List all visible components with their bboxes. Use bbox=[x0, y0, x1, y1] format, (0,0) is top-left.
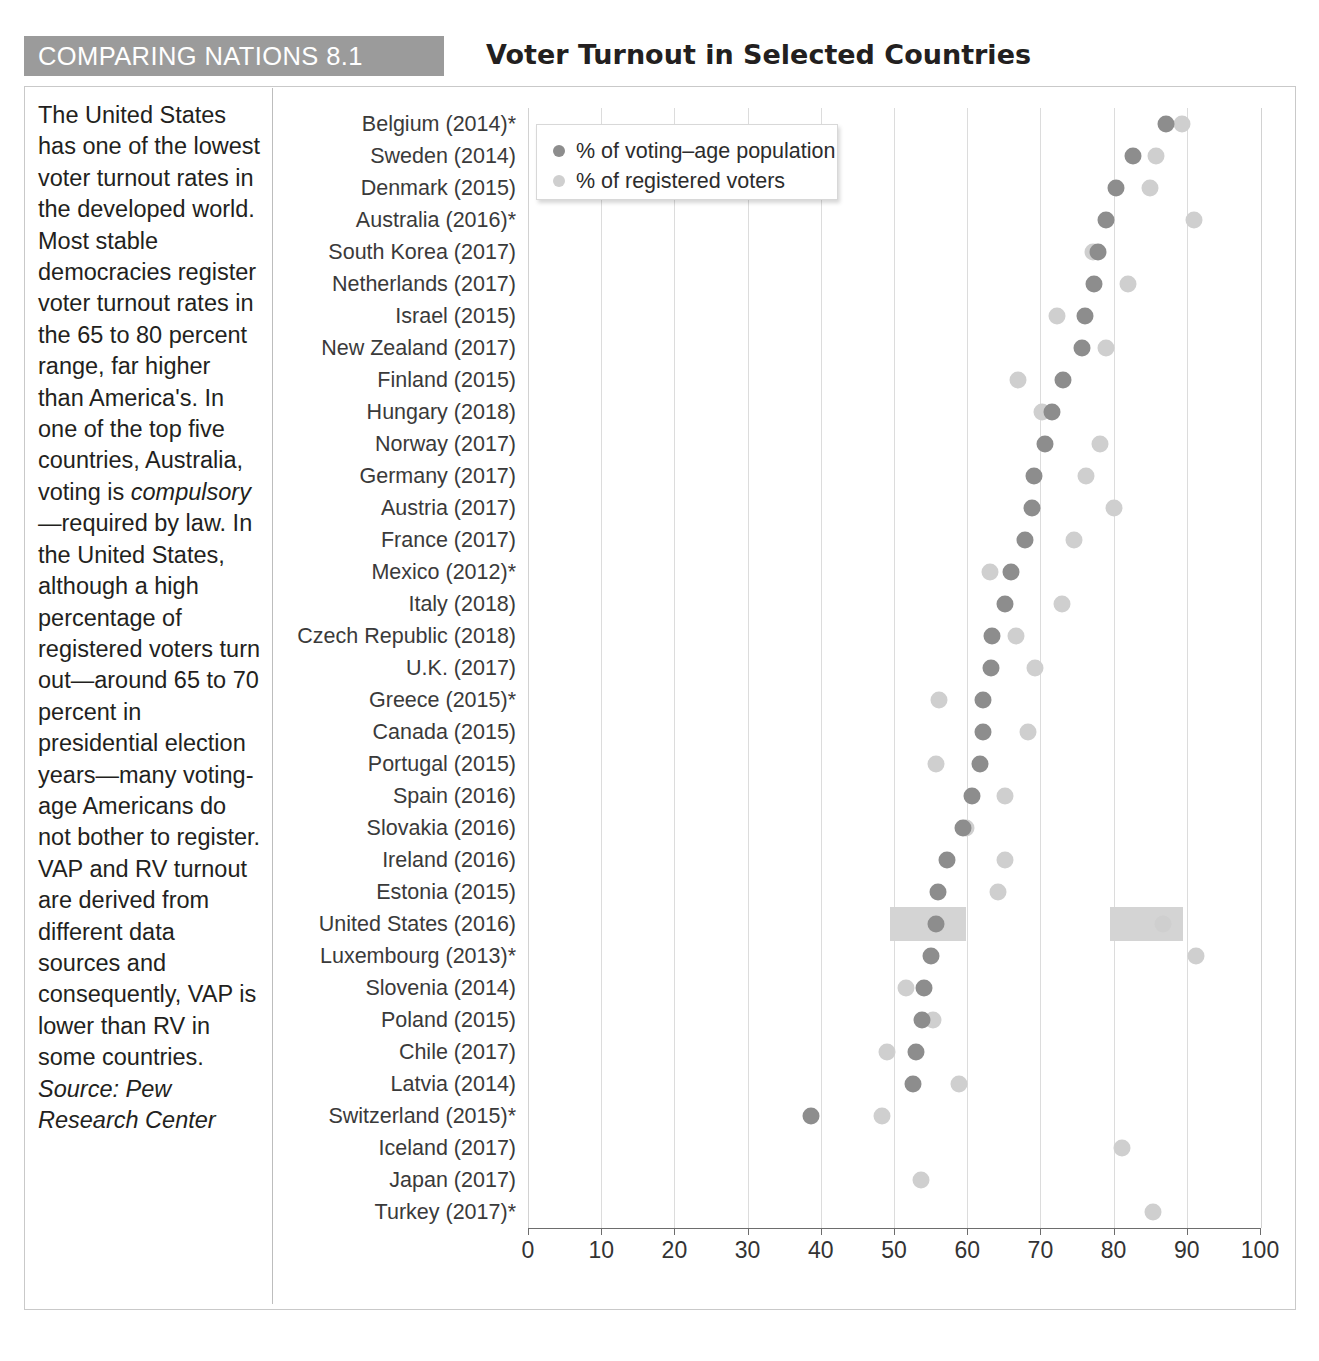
data-point-vap bbox=[916, 980, 933, 997]
data-point-rv bbox=[1145, 1204, 1162, 1221]
data-point-vap bbox=[1124, 148, 1141, 165]
x-tick-label-10: 10 bbox=[588, 1237, 614, 1264]
x-tick-label-50: 50 bbox=[881, 1237, 907, 1264]
category-label: Ireland (2016) bbox=[382, 848, 516, 873]
data-point-rv bbox=[996, 852, 1013, 869]
data-point-vap bbox=[1077, 308, 1094, 325]
x-tick-label-70: 70 bbox=[1028, 1237, 1054, 1264]
category-label: Netherlands (2017) bbox=[332, 272, 516, 297]
x-tick-label-100: 100 bbox=[1241, 1237, 1279, 1264]
category-label: Mexico (2012)* bbox=[371, 560, 516, 585]
category-label: Japan (2017) bbox=[389, 1168, 516, 1193]
data-point-rv bbox=[874, 1108, 891, 1125]
data-point-vap bbox=[1090, 244, 1107, 261]
data-point-vap bbox=[913, 1012, 930, 1029]
category-label: Portugal (2015) bbox=[368, 752, 516, 777]
data-point-rv bbox=[1187, 948, 1204, 965]
data-point-rv bbox=[1007, 628, 1024, 645]
data-point-rv bbox=[1155, 916, 1172, 933]
x-tick-0 bbox=[528, 1229, 529, 1235]
x-tick-40 bbox=[821, 1229, 822, 1235]
panel-divider bbox=[272, 88, 273, 1304]
gridline-50 bbox=[894, 108, 895, 1228]
data-point-rv bbox=[1027, 660, 1044, 677]
chart-area: 0102030405060708090100 Belgium (2014)*Sw… bbox=[290, 96, 1285, 1286]
category-label: Poland (2015) bbox=[381, 1008, 516, 1033]
x-tick-80 bbox=[1114, 1229, 1115, 1235]
data-point-rv bbox=[981, 564, 998, 581]
category-label: Israel (2015) bbox=[395, 304, 516, 329]
data-point-vap bbox=[927, 916, 944, 933]
data-point-rv bbox=[898, 980, 915, 997]
x-tick-30 bbox=[748, 1229, 749, 1235]
side-note-text: The United States has one of the lowest … bbox=[38, 100, 262, 1136]
gridline-40 bbox=[821, 108, 822, 1228]
legend-entry-vap: % of voting–age population bbox=[553, 139, 835, 164]
category-label: Greece (2015)* bbox=[369, 688, 516, 713]
gridline-60 bbox=[967, 108, 968, 1228]
category-label: U.K. (2017) bbox=[406, 656, 516, 681]
data-point-vap bbox=[1025, 468, 1042, 485]
gridline-30 bbox=[748, 108, 749, 1228]
category-label: France (2017) bbox=[381, 528, 516, 553]
legend-swatch-rv bbox=[553, 175, 565, 187]
gridline-80 bbox=[1114, 108, 1115, 1228]
category-label: Iceland (2017) bbox=[379, 1136, 516, 1161]
note-paragraph-1: The United States has one of the lowest … bbox=[38, 102, 260, 505]
data-point-rv bbox=[1009, 372, 1026, 389]
data-point-rv bbox=[1186, 212, 1203, 229]
data-point-vap bbox=[972, 756, 989, 773]
x-tick-label-40: 40 bbox=[808, 1237, 834, 1264]
category-label: Australia (2016)* bbox=[356, 208, 516, 233]
data-point-rv bbox=[996, 788, 1013, 805]
note-source: Source: Pew Research Center bbox=[38, 1076, 216, 1133]
data-point-vap bbox=[982, 660, 999, 677]
data-point-rv bbox=[1105, 500, 1122, 517]
data-point-rv bbox=[1148, 148, 1165, 165]
data-point-vap bbox=[905, 1076, 922, 1093]
data-point-vap bbox=[923, 948, 940, 965]
data-point-vap bbox=[1085, 276, 1102, 293]
category-label: Turkey (2017)* bbox=[375, 1200, 516, 1225]
category-label: Norway (2017) bbox=[375, 432, 516, 457]
data-point-vap bbox=[1074, 340, 1091, 357]
comparing-nations-figure: COMPARING NATIONS 8.1 Voter Turnout in S… bbox=[0, 0, 1319, 1361]
category-label: Belgium (2014)* bbox=[362, 112, 516, 137]
figure-header: COMPARING NATIONS 8.1 Voter Turnout in S… bbox=[24, 36, 1296, 76]
x-tick-label-0: 0 bbox=[522, 1237, 535, 1264]
category-label: New Zealand (2017) bbox=[321, 336, 516, 361]
gridline-20 bbox=[674, 108, 675, 1228]
data-point-vap bbox=[1017, 532, 1034, 549]
category-label: Canada (2015) bbox=[373, 720, 516, 745]
x-tick-label-30: 30 bbox=[735, 1237, 761, 1264]
data-point-rv bbox=[1142, 180, 1159, 197]
data-point-vap bbox=[1024, 500, 1041, 517]
legend-entry-rv: % of registered voters bbox=[553, 169, 785, 194]
category-label: Hungary (2018) bbox=[367, 400, 516, 425]
data-point-vap bbox=[907, 1044, 924, 1061]
x-tick-50 bbox=[894, 1229, 895, 1235]
data-point-vap bbox=[1098, 212, 1115, 229]
data-point-rv bbox=[1098, 340, 1115, 357]
data-point-vap bbox=[974, 692, 991, 709]
category-label: Italy (2018) bbox=[408, 592, 516, 617]
data-point-rv bbox=[928, 756, 945, 773]
data-point-vap bbox=[1107, 180, 1124, 197]
category-label: Luxembourg (2013)* bbox=[320, 944, 516, 969]
gridline-10 bbox=[601, 108, 602, 1228]
data-point-rv bbox=[989, 884, 1006, 901]
category-label: Czech Republic (2018) bbox=[297, 624, 516, 649]
x-tick-90 bbox=[1187, 1229, 1188, 1235]
category-label: United States (2016) bbox=[319, 912, 516, 937]
data-point-vap bbox=[963, 788, 980, 805]
data-point-vap bbox=[984, 628, 1001, 645]
highlight-band-1 bbox=[1110, 907, 1183, 941]
plot-region bbox=[528, 108, 1262, 1228]
data-point-vap bbox=[939, 852, 956, 869]
category-label: Switzerland (2015)* bbox=[328, 1104, 516, 1129]
x-tick-60 bbox=[967, 1229, 968, 1235]
data-point-vap bbox=[974, 724, 991, 741]
data-point-vap bbox=[954, 820, 971, 837]
figure-title: Voter Turnout in Selected Countries bbox=[486, 35, 1031, 75]
note-paragraph-2: —required by law. In the United States, … bbox=[38, 510, 260, 1070]
